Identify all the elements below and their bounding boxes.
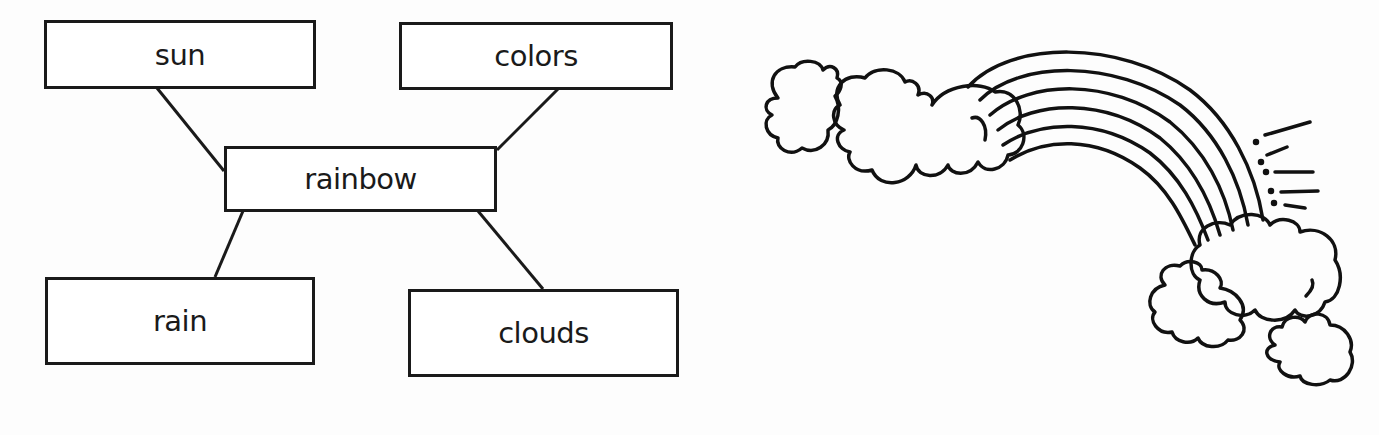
node-sun-label: sun	[155, 38, 205, 72]
cloud-right-icon	[1191, 214, 1340, 320]
node-rainbow-label: rainbow	[304, 162, 417, 196]
cloud-left-icon	[766, 61, 841, 152]
cloud-highlight-icon	[972, 117, 986, 140]
connector-colors	[497, 89, 558, 150]
node-colors-label: colors	[494, 39, 578, 73]
cloud-lower-icon	[1150, 262, 1244, 347]
node-rainbow-center: rainbow	[224, 146, 497, 212]
node-clouds-label: clouds	[498, 316, 589, 350]
connector-clouds	[478, 211, 543, 289]
node-colors: colors	[399, 22, 673, 90]
node-clouds: clouds	[408, 289, 679, 377]
connector-rain	[215, 211, 243, 277]
node-rain: rain	[45, 277, 315, 365]
cloud-highlight-icon	[1306, 280, 1313, 296]
node-sun: sun	[44, 20, 316, 89]
rainbow-arcs-icon	[968, 52, 1263, 245]
cloud-small-icon	[1267, 314, 1353, 385]
rainbow-illustration	[740, 30, 1370, 410]
connector-sun	[157, 88, 224, 171]
node-rain-label: rain	[153, 304, 207, 338]
worksheet-page: sun colors rainbow rain clouds	[0, 0, 1379, 435]
sun-rays-icon	[1255, 122, 1319, 208]
